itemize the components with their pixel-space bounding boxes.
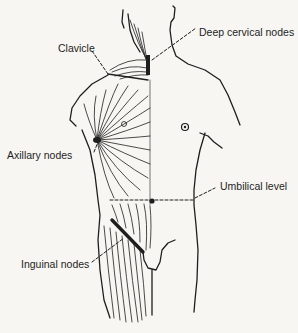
label-umbilical-level: Umbilical level xyxy=(220,180,287,192)
deep-cervical-node xyxy=(146,55,150,75)
lymphatic-diagram: Deep cervical nodes Clavicle Axillary no… xyxy=(0,0,298,333)
body-outline-drawing xyxy=(0,0,298,333)
label-axillary-nodes: Axillary nodes xyxy=(7,149,72,161)
body-outline xyxy=(70,6,240,318)
label-inguinal-nodes: Inguinal nodes xyxy=(21,258,89,270)
label-clavicle: Clavicle xyxy=(58,42,95,54)
label-deep-cervical-nodes: Deep cervical nodes xyxy=(199,26,294,38)
umbilicus-dot xyxy=(149,198,154,203)
axillary-node xyxy=(93,137,101,143)
